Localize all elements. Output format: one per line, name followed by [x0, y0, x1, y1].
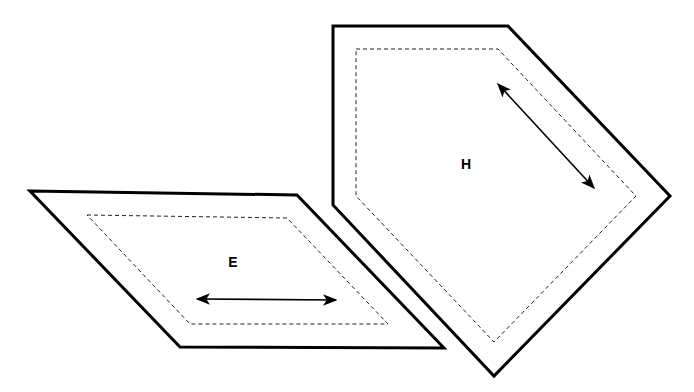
shape-e-label: E [228, 254, 237, 270]
diagram-canvas: E H [0, 0, 694, 392]
shape-e: E [30, 191, 444, 348]
shape-h-label: H [461, 156, 471, 172]
shape-e-double-arrow-icon [197, 299, 336, 300]
